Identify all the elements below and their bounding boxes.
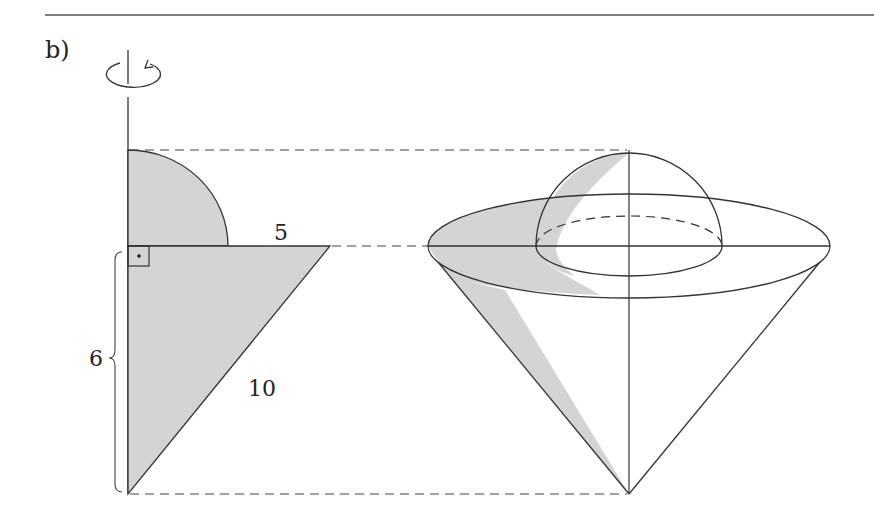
right-triangle [128, 246, 330, 494]
slant-label: 10 [248, 376, 276, 401]
height-brace [109, 252, 122, 492]
part-label: b) [45, 36, 70, 64]
solid-of-revolution [428, 150, 830, 494]
height-label: 6 [89, 346, 103, 371]
radius-label: 5 [274, 220, 288, 245]
diagram-canvas: b) 5 6 10 [0, 0, 874, 516]
quarter-circle [128, 150, 228, 246]
rotation-arrow-icon [106, 60, 160, 87]
